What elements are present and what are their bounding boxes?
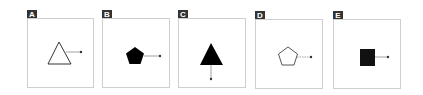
pointer-dot [210, 78, 212, 80]
panel-a-shape [48, 42, 82, 64]
pentagon-outline-icon [279, 47, 298, 65]
panel-d-shape [279, 47, 313, 65]
pentagon-solid-icon [126, 47, 144, 64]
pointer-dot [310, 56, 312, 58]
shapes-layer [0, 0, 423, 95]
panel-b-shape [126, 47, 161, 64]
panel-e-shape [360, 49, 389, 66]
panel-c-shape [200, 43, 223, 80]
square-solid-icon [360, 49, 375, 66]
triangle-solid-icon [200, 43, 223, 65]
pointer-dot [159, 55, 161, 57]
pointer-dot [80, 51, 82, 53]
triangle-outline-icon [48, 42, 71, 64]
pointer-dot [387, 56, 389, 58]
